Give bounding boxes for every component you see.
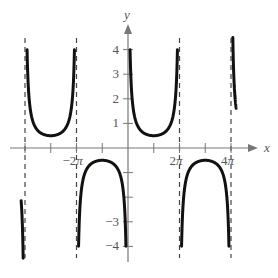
curve-branch	[21, 201, 23, 258]
curve-branch	[130, 50, 177, 136]
curve-branch	[79, 160, 126, 246]
y-tick-label: 4	[113, 42, 120, 57]
x-tick-label: −2π	[63, 153, 84, 168]
x-axis-label: x	[263, 140, 270, 155]
x-tick-label: 2π	[170, 153, 184, 168]
curve-branch	[182, 160, 229, 246]
x-axis-arrow-icon	[248, 144, 258, 152]
y-tick-label: 1	[113, 115, 120, 130]
y-tick-label: −4	[105, 238, 119, 253]
y-tick-label: 2	[113, 91, 120, 106]
x-tick-label: 4π	[221, 153, 235, 168]
y-tick-label: −3	[105, 214, 119, 229]
axes	[10, 24, 258, 262]
y-axis-arrow-icon	[124, 24, 132, 34]
y-tick-label: 3	[113, 66, 120, 81]
curve-branch	[27, 50, 74, 136]
curve-branch	[233, 37, 236, 108]
y-axis-label: y	[122, 7, 130, 22]
graph: −2π2π4π4321−3−4xy	[0, 0, 278, 278]
